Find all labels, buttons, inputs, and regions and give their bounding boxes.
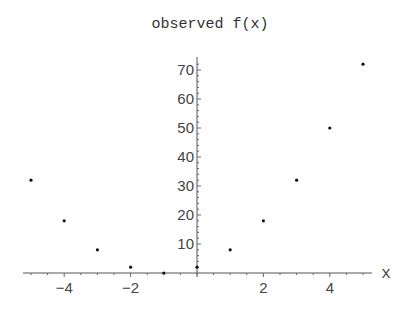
data-point <box>63 219 66 222</box>
data-point <box>262 219 265 222</box>
y-tick-label: 50 <box>177 119 194 136</box>
scatter-chart: observed f(x) −4−22410203040506070 x <box>0 0 420 320</box>
axes: −4−22410203040506070 <box>23 57 372 296</box>
data-point <box>29 179 32 182</box>
y-tick-label: 70 <box>177 61 194 78</box>
data-point <box>229 248 232 251</box>
y-tick-label: 60 <box>177 90 194 107</box>
y-tick-label: 20 <box>177 206 194 223</box>
data-point <box>328 126 331 129</box>
x-tick-label: 4 <box>326 279 334 296</box>
data-point <box>361 63 364 66</box>
y-tick-label: 30 <box>177 177 194 194</box>
y-tick-label: 40 <box>177 148 194 165</box>
data-point <box>96 248 99 251</box>
data-point <box>129 266 132 269</box>
data-point <box>162 271 165 274</box>
data-point <box>295 179 298 182</box>
x-tick-label: −4 <box>56 279 73 296</box>
x-tick-label: −2 <box>122 279 139 296</box>
y-tick-label: 10 <box>177 235 194 252</box>
x-axis-label: x <box>381 265 391 283</box>
chart-title: observed f(x) <box>151 16 268 33</box>
x-tick-label: 2 <box>259 279 267 296</box>
data-point <box>195 266 198 269</box>
